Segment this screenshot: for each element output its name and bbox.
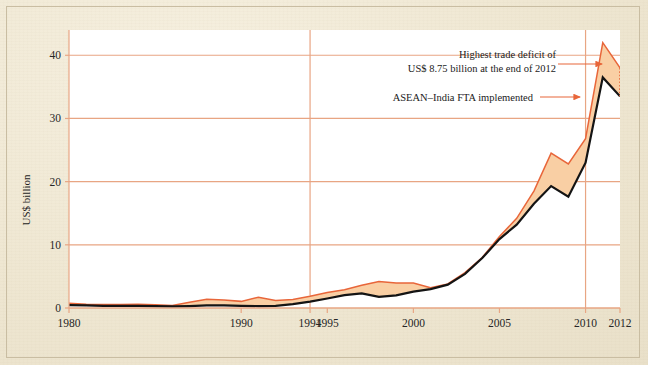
chart-page: 010203040 198019901994199520002005201020… [0,0,648,365]
y-tick-label: 0 [55,302,61,314]
x-tick-label: 1995 [316,317,339,329]
annotation-deficit-line1: Highest trade deficit of [459,49,557,60]
annotation-fta-label: ASEAN–India FTA implemented [393,92,534,103]
x-tick-label: 2012 [609,317,632,329]
y-tick-label: 10 [50,239,62,251]
x-tick-label: 2000 [402,317,425,329]
y-tick-label: 40 [50,49,62,61]
annotation-deficit-line2: US$ 8.75 billion at the end of 2012 [408,63,556,74]
x-tick-label: 2005 [488,317,511,329]
y-axis-ticks: 010203040 [50,49,70,314]
x-axis-ticks: 19801990199419952000200520102012 [58,308,632,329]
x-tick-label: 2010 [574,317,597,329]
y-axis-title: US$ billion [20,174,32,226]
trade-deficit-chart: 010203040 198019901994199520002005201020… [0,0,648,365]
x-tick-label: 1990 [230,317,253,329]
y-tick-label: 30 [50,112,62,124]
y-tick-label: 20 [50,176,62,188]
x-tick-label: 1980 [58,317,81,329]
